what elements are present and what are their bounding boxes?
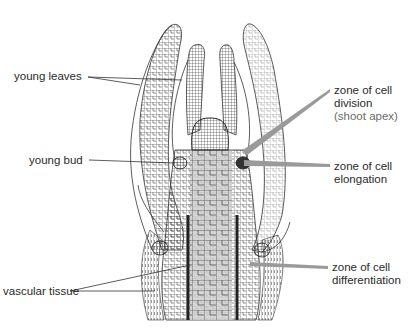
stem: [162, 150, 260, 320]
zone-elongation-line1: zone of cell: [334, 160, 392, 173]
shoot-tip-diagram: young leaves young bud vascular tissue z…: [0, 0, 410, 333]
young-bud-left: [173, 157, 187, 169]
shoot-apex: [192, 118, 229, 150]
zone-differentiation-line1: zone of cell: [332, 261, 390, 274]
zone-division-line3: (shoot apex): [334, 110, 398, 123]
zone-division-line1: zone of cell: [334, 84, 392, 97]
zone-division-line2: division: [334, 97, 372, 110]
label-young-leaves: young leaves: [14, 70, 82, 83]
zone-elongation-line2: elongation: [334, 173, 387, 186]
label-vascular-tissue: vascular tissue: [3, 285, 79, 298]
label-young-bud: young bud: [29, 154, 83, 167]
zone-differentiation-line2: differentiation: [332, 274, 401, 287]
